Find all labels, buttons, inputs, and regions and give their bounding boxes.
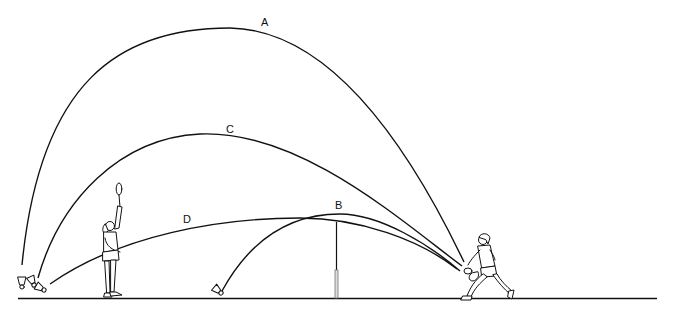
racket-icon (464, 268, 472, 274)
label-a: A (261, 16, 269, 28)
net (335, 222, 338, 298)
label-d: D (183, 213, 191, 225)
shuttlecocks (18, 275, 225, 297)
net-lower-post (335, 270, 338, 298)
shuttlecock-icon (18, 277, 26, 289)
trajectory-c (38, 134, 462, 278)
racket-icon (116, 183, 122, 195)
shuttlecock-icon (212, 284, 226, 297)
receiving-player (103, 183, 122, 297)
badminton-trajectory-diagram: A C D B (0, 0, 678, 321)
label-b: B (335, 199, 342, 211)
label-c: C (226, 123, 234, 135)
hitting-player (461, 234, 514, 300)
trajectory-b (222, 214, 460, 291)
